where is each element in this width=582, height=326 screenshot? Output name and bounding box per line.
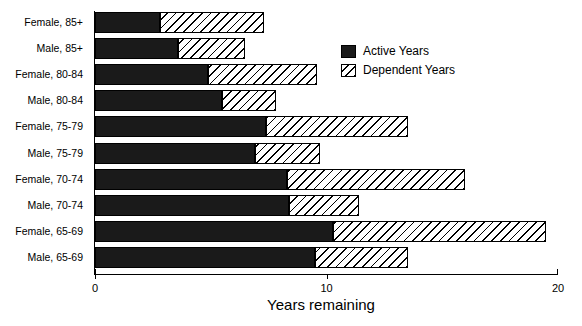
- bar-segment-active-years: [95, 64, 208, 85]
- bar-segment-dependent-years: [178, 38, 245, 59]
- bar-segment-dependent-years: [222, 90, 275, 111]
- x-axis-tick-label: 0: [80, 282, 110, 294]
- bar-row: [95, 90, 276, 111]
- bar-segment-dependent-years: [289, 195, 358, 216]
- bar-row: [95, 169, 465, 190]
- x-axis-tick-label: 20: [543, 282, 573, 294]
- y-axis-label: Male, 85+: [0, 42, 83, 54]
- y-axis-label: Male, 80-84: [0, 94, 83, 106]
- bar-segment-active-years: [95, 169, 287, 190]
- x-axis-tick: [557, 269, 558, 274]
- bar-row: [95, 12, 264, 33]
- bar-row: [95, 38, 245, 59]
- bar-row: [95, 64, 317, 85]
- solid-black-swatch-icon: [341, 45, 356, 58]
- x-axis-tick: [95, 269, 96, 274]
- bar-segment-dependent-years: [315, 247, 408, 268]
- y-axis-label: Female, 80-84: [0, 68, 83, 80]
- bar-segment-dependent-years: [255, 143, 320, 164]
- bar-segment-dependent-years: [160, 12, 264, 33]
- bar-segment-dependent-years: [266, 116, 407, 137]
- x-axis-tick: [95, 274, 96, 279]
- x-axis-title: Years remaining: [0, 296, 582, 314]
- bar-segment-dependent-years: [208, 64, 317, 85]
- bar-segment-dependent-years: [287, 169, 465, 190]
- bar-row: [95, 247, 408, 268]
- x-axis-tick: [327, 274, 328, 279]
- chart-legend: Active Years Dependent Years: [341, 44, 511, 82]
- bar-segment-active-years: [95, 90, 222, 111]
- x-axis-title-text: Years remaining: [267, 296, 375, 314]
- bar-segment-dependent-years: [333, 221, 546, 242]
- bar-row: [95, 221, 546, 242]
- legend-label-dependent-years: Dependent Years: [363, 63, 455, 77]
- bar-segment-active-years: [95, 221, 333, 242]
- bar-segment-active-years: [95, 195, 289, 216]
- bar-segment-active-years: [95, 12, 160, 33]
- y-axis-label: Male, 75-79: [0, 147, 83, 159]
- bar-row: [95, 195, 359, 216]
- bar-segment-active-years: [95, 116, 266, 137]
- y-axis-label: Female, 70-74: [0, 173, 83, 185]
- y-axis-label: Male, 70-74: [0, 199, 83, 211]
- y-axis-line: [94, 11, 95, 275]
- legend-item-active-years: Active Years: [341, 44, 511, 58]
- y-axis-label: Female, 85+: [0, 16, 83, 28]
- bar-row: [95, 116, 408, 137]
- stacked-bar-chart: Female, 85+Male, 85+Female, 80-84Male, 8…: [0, 0, 582, 326]
- y-axis-label: Female, 75-79: [0, 120, 83, 132]
- legend-item-dependent-years: Dependent Years: [341, 63, 511, 77]
- hatched-swatch-icon: [341, 64, 356, 77]
- x-axis-tick-label: 10: [312, 282, 342, 294]
- y-axis-category-labels: Female, 85+Male, 85+Female, 80-84Male, 8…: [0, 11, 88, 274]
- y-axis-label: Female, 65-69: [0, 225, 83, 237]
- bar-segment-active-years: [95, 38, 178, 59]
- bar-row: [95, 143, 320, 164]
- bar-segment-active-years: [95, 143, 255, 164]
- bar-segment-active-years: [95, 247, 315, 268]
- y-axis-label: Male, 65-69: [0, 251, 83, 263]
- legend-label-active-years: Active Years: [363, 44, 429, 58]
